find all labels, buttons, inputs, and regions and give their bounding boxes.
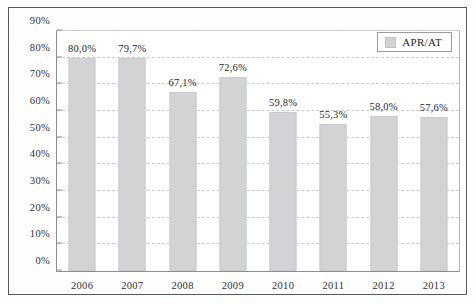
y-axis-tick: 40%	[30, 148, 57, 159]
x-axis-tick-label: 2012	[373, 280, 395, 291]
bar-slot: 67,1%2008	[158, 31, 208, 271]
y-axis-tick-label: 50%	[30, 121, 57, 132]
y-axis-tick: 30%	[30, 175, 57, 186]
bar-slot: 58,0%2012	[359, 31, 409, 271]
bar[interactable]	[270, 112, 297, 271]
y-axis-tick-label: 0%	[35, 255, 57, 266]
bar-slot: 57,6%2013	[409, 31, 459, 271]
x-axis-tick-label: 2011	[322, 280, 344, 291]
bar[interactable]	[169, 92, 196, 271]
chart-outer-frame: 0%10%20%30%40%50%60%70%80%90% 80,0%20067…	[8, 7, 467, 295]
bar-value-label: 57,6%	[420, 102, 448, 113]
legend-swatch-icon	[385, 37, 396, 48]
bar-value-label: 58,0%	[370, 101, 398, 112]
y-axis-tick-label: 30%	[30, 175, 57, 186]
bar-slot: 55,3%2011	[308, 31, 358, 271]
bar[interactable]	[219, 77, 246, 271]
bar-value-label: 79,7%	[118, 43, 146, 54]
legend-label-apr-at: APR/AT	[402, 36, 442, 48]
y-axis-tick-label: 90%	[30, 15, 57, 26]
bar[interactable]	[69, 58, 96, 271]
x-axis-tick-label: 2008	[172, 280, 194, 291]
x-axis-tick-label: 2006	[71, 280, 93, 291]
bar[interactable]	[320, 124, 347, 271]
plot-area: 0%10%20%30%40%50%60%70%80%90% 80,0%20067…	[56, 30, 460, 272]
bar-chart-figure: 0%10%20%30%40%50%60%70%80%90% 80,0%20067…	[0, 0, 476, 305]
y-axis-tick-label: 20%	[30, 201, 57, 212]
y-axis-tick: 50%	[30, 121, 57, 132]
y-axis-tick: 90%	[30, 15, 57, 26]
y-axis-tick: 10%	[30, 228, 57, 239]
bar-slot: 72,6%2009	[208, 31, 258, 271]
bar[interactable]	[420, 117, 447, 271]
bar-slot: 59,8%2010	[258, 31, 308, 271]
y-axis-tick-label: 60%	[30, 95, 57, 106]
y-axis-tick: 0%	[35, 255, 57, 266]
y-axis-tick: 80%	[30, 41, 57, 52]
y-axis-tick-label: 80%	[30, 41, 57, 52]
y-axis-tick-label: 10%	[30, 228, 57, 239]
bar-value-label: 72,6%	[219, 62, 247, 73]
bar-value-label: 59,8%	[269, 97, 297, 108]
chart-legend: APR/AT	[377, 32, 452, 52]
x-axis-tick-label: 2010	[272, 280, 294, 291]
bar-value-label: 67,1%	[169, 77, 197, 88]
x-axis-tick-label: 2007	[121, 280, 143, 291]
y-axis-tick: 20%	[30, 201, 57, 212]
bar-value-label: 80,0%	[68, 43, 96, 54]
bar-slot: 80,0%2006	[57, 31, 107, 271]
x-axis-tick-label: 2009	[222, 280, 244, 291]
x-axis-tick-label: 2013	[423, 280, 445, 291]
bar-value-label: 55,3%	[319, 109, 347, 120]
bar-slot: 79,7%2007	[107, 31, 157, 271]
bar[interactable]	[119, 58, 146, 271]
y-axis-tick: 70%	[30, 68, 57, 79]
y-axis-tick-label: 40%	[30, 148, 57, 159]
y-axis-tick: 60%	[30, 95, 57, 106]
bar[interactable]	[370, 116, 397, 271]
y-axis-tick-label: 70%	[30, 68, 57, 79]
